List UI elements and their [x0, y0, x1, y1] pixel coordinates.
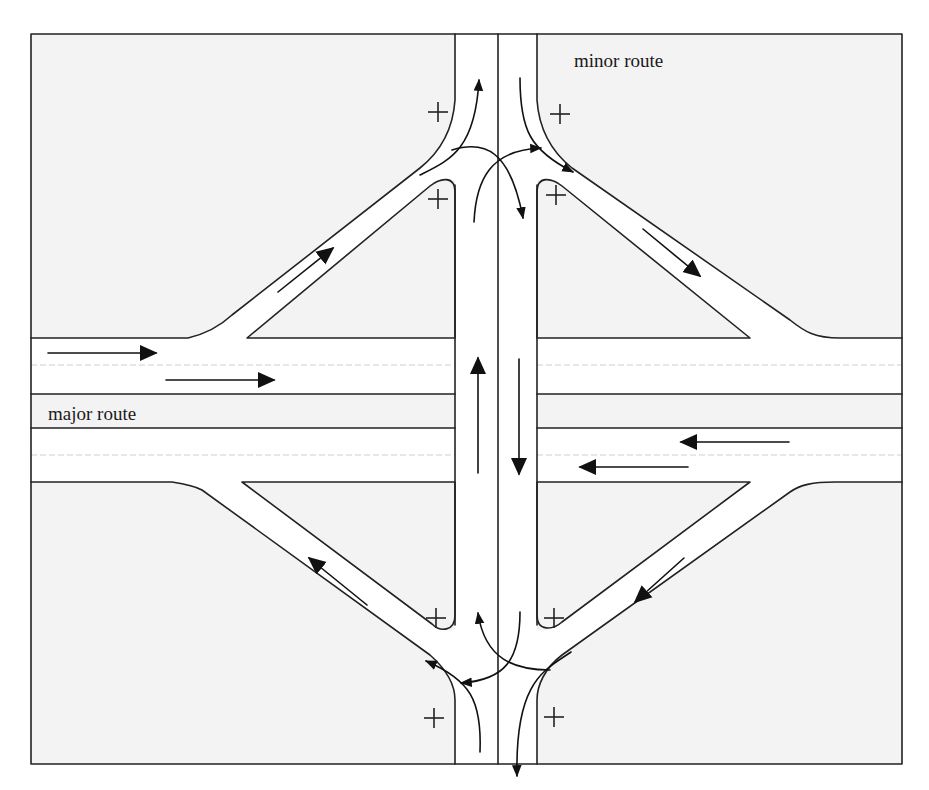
interchange-diagram: minor route major route: [0, 0, 929, 790]
major-route-label: major route: [48, 403, 136, 424]
minor-route-label: minor route: [574, 50, 663, 71]
